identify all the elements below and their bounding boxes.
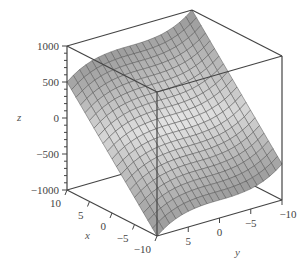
x-axis-label: x [84,229,90,241]
z-axis: 10005000−500−1000 [31,40,67,196]
x-tick [88,202,90,207]
z-tick-label: 0 [54,112,60,124]
x-tick [110,213,112,218]
surface-plot: 10005000−500−1000 1050−5−10 50−5−10 z x … [0,0,304,262]
x-tick-label: 0 [101,220,107,232]
x-tick-label: −5 [117,232,129,244]
y-axis-label: y [234,246,240,258]
y-tick-label: −5 [245,217,257,229]
x-tick [65,190,67,195]
z-tick-label: 1000 [37,40,60,52]
x-tick [133,225,135,230]
x-tick-label: 5 [78,209,84,221]
x-tick-label: −10 [134,243,152,255]
x-tick-label: 10 [50,197,62,209]
z-tick-label: −500 [36,148,59,160]
x-tick [155,236,157,241]
z-axis-label: z [16,111,22,123]
y-tick-label: 0 [217,226,223,238]
z-tick-label: 500 [43,76,60,88]
y-tick-label: 5 [186,235,192,247]
y-tick-label: −10 [279,208,297,220]
z-tick-label: −1000 [31,184,60,196]
surface-mesh [67,10,282,236]
